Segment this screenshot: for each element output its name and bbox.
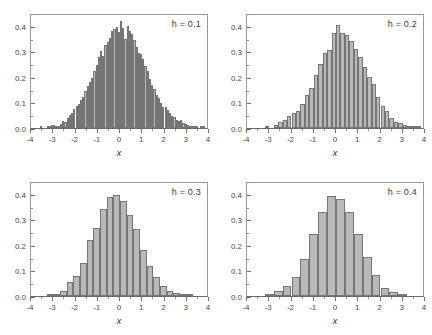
y-axis-tick <box>247 78 251 79</box>
x-axis-tick-label: -1 <box>93 135 100 144</box>
x-axis-minor-tick <box>413 129 414 131</box>
histogram-bar <box>274 291 283 296</box>
x-axis-tick <box>335 297 336 301</box>
x-axis-minor-tick <box>368 297 369 299</box>
x-axis-minor-tick <box>63 129 64 131</box>
x-axis-minor-tick <box>279 129 280 131</box>
y-axis-tick-label: 0.4 <box>15 22 26 31</box>
y-axis-tick-label: 0.3 <box>231 48 242 57</box>
x-axis-tick-label: -4 <box>242 135 249 144</box>
x-axis-minor-tick <box>41 129 42 131</box>
histogram-bar <box>100 209 107 296</box>
x-axis-tick <box>97 297 98 301</box>
histogram-bar <box>372 275 381 296</box>
y-axis-tick <box>31 129 35 130</box>
x-axis-tick <box>164 129 165 133</box>
x-axis-tick-label: -1 <box>309 135 316 144</box>
x-axis-tick-label: 0 <box>117 135 121 144</box>
y-axis-minor-tick <box>31 182 33 183</box>
x-axis-tick <box>291 129 292 133</box>
histogram-bar <box>300 259 309 296</box>
x-axis-minor-tick <box>63 297 64 299</box>
y-axis-tick <box>247 246 251 247</box>
x-axis-minor-tick <box>257 297 258 299</box>
histogram-bars <box>31 15 207 128</box>
y-axis-tick-label: 0.1 <box>15 267 26 276</box>
histogram-bar <box>416 126 420 128</box>
panel-h-0-1: h = 0.10.00.10.20.30.4-4-3-2-101234x <box>0 0 216 167</box>
y-axis-tick-label: 0.4 <box>231 190 242 199</box>
x-axis-tick-label: -3 <box>265 303 272 312</box>
x-axis-tick <box>186 129 187 133</box>
histogram-bar <box>73 276 80 296</box>
y-axis-minor-tick <box>31 116 33 117</box>
x-axis-tick-label: 1 <box>355 303 359 312</box>
x-axis-title: x <box>246 316 424 326</box>
x-axis-tick-label: -3 <box>49 135 56 144</box>
plot-area: h = 0.2 <box>246 14 424 129</box>
x-axis-tick-label: 3 <box>400 303 404 312</box>
y-axis-tick-label: 0.0 <box>231 125 242 134</box>
x-axis-tick <box>30 129 31 133</box>
x-axis-tick <box>52 297 53 301</box>
x-axis-tick-label: 2 <box>161 135 165 144</box>
x-axis-tick <box>75 129 76 133</box>
y-axis-tick-label: 0.0 <box>15 293 26 302</box>
x-axis-title: x <box>246 148 424 158</box>
y-axis-tick-label: 0.0 <box>231 293 242 302</box>
y-axis-tick <box>31 78 35 79</box>
x-axis-tick-label: 4 <box>422 135 426 144</box>
x-axis-minor-tick <box>130 297 131 299</box>
y-axis-tick <box>31 246 35 247</box>
panel-h-0-2: h = 0.20.00.10.20.30.4-4-3-2-101234x <box>216 0 432 167</box>
histogram-bar <box>318 212 327 296</box>
x-axis-tick <box>335 129 336 133</box>
histogram-bar <box>309 234 318 296</box>
y-axis-tick <box>31 52 35 53</box>
x-axis-minor-tick <box>175 297 176 299</box>
histogram-bar <box>127 215 134 296</box>
x-axis-tick <box>380 129 381 133</box>
x-axis-minor-tick <box>302 129 303 131</box>
y-axis-tick <box>247 195 251 196</box>
x-axis-tick <box>246 297 247 301</box>
y-axis-minor-tick <box>247 40 249 41</box>
histogram-bar <box>196 126 198 128</box>
x-axis-tick-label: -4 <box>242 303 249 312</box>
x-axis-tick <box>313 129 314 133</box>
x-axis-tick <box>119 129 120 133</box>
y-axis-minor-tick <box>247 116 249 117</box>
y-axis-minor-tick <box>247 284 249 285</box>
histogram-bar <box>40 126 42 128</box>
x-axis-tick-label: 1 <box>355 135 359 144</box>
y-axis-tick-label: 0.1 <box>231 99 242 108</box>
y-axis-tick-label: 0.3 <box>15 48 26 57</box>
x-axis-tick <box>402 297 403 301</box>
x-axis-minor-tick <box>108 297 109 299</box>
histogram-bar <box>147 266 154 296</box>
x-axis-minor-tick <box>152 129 153 131</box>
y-axis-tick <box>31 195 35 196</box>
histogram-bar <box>202 126 204 128</box>
histogram-bar <box>160 286 167 296</box>
x-axis-tick-label: -4 <box>26 303 33 312</box>
histogram-bar <box>381 288 390 296</box>
x-axis-tick-label: 2 <box>161 303 165 312</box>
x-axis-minor-tick <box>413 297 414 299</box>
x-axis-tick <box>30 297 31 301</box>
x-axis-minor-tick <box>108 129 109 131</box>
x-axis-tick-label: 4 <box>422 303 426 312</box>
bandwidth-annotation: h = 0.3 <box>172 187 201 197</box>
x-axis-minor-tick <box>346 129 347 131</box>
histogram-bar <box>187 294 194 296</box>
x-axis-tick-label: -3 <box>49 303 56 312</box>
x-axis-tick <box>208 129 209 133</box>
x-axis-tick <box>97 129 98 133</box>
x-axis-tick <box>380 297 381 301</box>
y-axis-minor-tick <box>247 14 249 15</box>
histogram-bar <box>87 240 94 296</box>
x-axis-tick <box>208 297 209 301</box>
x-axis-tick-label: -1 <box>93 303 100 312</box>
x-axis-tick-label: -2 <box>71 135 78 144</box>
x-axis-minor-tick <box>175 129 176 131</box>
